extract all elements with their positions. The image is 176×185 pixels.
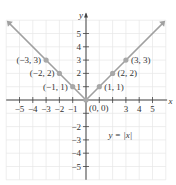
y-tick-label: −3 [71, 135, 81, 145]
data-point [44, 58, 49, 63]
y-axis-label: y [78, 10, 83, 20]
y-tick-label: 5 [77, 29, 82, 39]
axes [6, 13, 167, 180]
x-tick-label: −1 [68, 104, 78, 114]
labels: (−3, 3)(−2, 2)(−1, 1)(0, 0)(1, 1)(2, 2)(… [15, 10, 173, 171]
y-axis-arrow-icon [84, 13, 88, 18]
x-tick-label: −3 [41, 104, 51, 114]
point-label: (2, 2) [118, 68, 138, 78]
x-tick-label: 5 [150, 104, 155, 114]
point-label: (3, 3) [131, 55, 151, 65]
function-label: y = |x| [108, 130, 133, 140]
point-label: (−2, 2) [30, 68, 55, 78]
point-label: (0, 0) [89, 103, 109, 113]
x-tick-label: 4 [137, 104, 142, 114]
x-tick-label: −5 [15, 104, 25, 114]
y-tick-label: −5 [71, 162, 81, 172]
y-tick-label: 1 [77, 82, 82, 92]
x-tick-label: −2 [55, 104, 65, 114]
data-point [57, 71, 62, 76]
data-point [70, 84, 75, 89]
y-tick-label: 4 [77, 42, 82, 52]
point-label: (−1, 1) [43, 82, 68, 92]
x-axis-label: x [167, 96, 172, 106]
y-tick-label: 2 [77, 68, 82, 78]
x-tick-label: 3 [124, 104, 129, 114]
data-point [97, 84, 102, 89]
point-label: (1, 1) [104, 82, 124, 92]
data-point [83, 97, 88, 102]
y-tick-label: −4 [71, 148, 81, 158]
point-label: (−3, 3) [17, 55, 42, 65]
y-tick-label: 3 [77, 55, 82, 65]
absolute-value-graph: (−3, 3)(−2, 2)(−1, 1)(0, 0)(1, 1)(2, 2)(… [0, 0, 176, 185]
x-tick-label: −4 [28, 104, 38, 114]
y-tick-label: −2 [71, 122, 81, 132]
data-point [110, 71, 115, 76]
data-point [123, 58, 128, 63]
